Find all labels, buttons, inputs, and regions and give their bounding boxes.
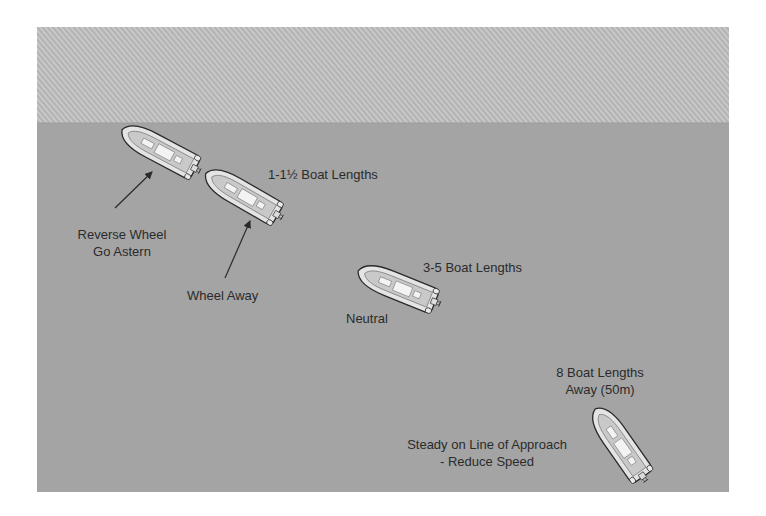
label-wheel-away: Wheel Away: [187, 287, 258, 304]
label-reverse-wheel: Reverse Wheel: [73, 226, 171, 243]
label-steady-approach: Steady on Line of Approach: [393, 436, 581, 453]
label-step1-distance: 1-1½ Boat Lengths: [268, 166, 378, 183]
label-go-astern: Go Astern: [73, 243, 171, 260]
label-away-50m: Away (50m): [540, 381, 660, 398]
label-neutral: Neutral: [346, 310, 388, 327]
label-step3-distance: 3-5 Boat Lengths: [423, 259, 522, 276]
label-step4-action: Steady on Line of Approach - Reduce Spee…: [393, 436, 581, 470]
label-reduce-speed: - Reduce Speed: [393, 453, 581, 470]
label-step1-action: Reverse Wheel Go Astern: [73, 226, 171, 260]
shore-area: [37, 27, 729, 123]
label-step4-distance: 8 Boat Lengths Away (50m): [540, 364, 660, 398]
label-8-boat-lengths: 8 Boat Lengths: [540, 364, 660, 381]
